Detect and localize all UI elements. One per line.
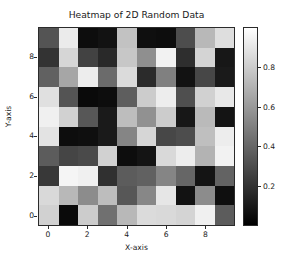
heatmap-cell (59, 28, 79, 48)
x-tick-mark (48, 226, 49, 229)
heatmap-cell (117, 67, 137, 87)
y-tick-mark (34, 136, 37, 137)
heatmap-cell (59, 48, 79, 68)
heatmap-cell (137, 87, 157, 107)
heatmap-cell (78, 28, 98, 48)
heatmap-cell (215, 127, 235, 147)
heatmap-cell (215, 166, 235, 186)
heatmap-cell (176, 205, 196, 225)
page-title: Heatmap of 2D Random Data (38, 9, 235, 21)
heatmap-cell (176, 107, 196, 127)
heatmap-cell (59, 186, 79, 206)
colorbar-tick-mark (258, 186, 261, 187)
x-tick-label: 6 (164, 230, 169, 239)
heatmap-cell (176, 146, 196, 166)
heatmap-cell (156, 48, 176, 68)
heatmap-cell (59, 205, 79, 225)
heatmap-cell (78, 166, 98, 186)
heatmap-cell (117, 107, 137, 127)
heatmap-cell (195, 48, 215, 68)
y-axis-label: Y-axis (4, 93, 13, 141)
y-tick-mark (34, 176, 37, 177)
heatmap-cell (78, 146, 98, 166)
heatmap-cell (137, 166, 157, 186)
heatmap-cell (176, 127, 196, 147)
heatmap-cell (39, 127, 59, 147)
colorbar-tick-label: 0.8 (263, 62, 275, 71)
heatmap-cell (59, 107, 79, 127)
heatmap-cell (98, 146, 118, 166)
colorbar-tick-mark (258, 146, 261, 147)
heatmap-cell (137, 205, 157, 225)
heatmap-cell (78, 205, 98, 225)
heatmap-plot-area (38, 27, 235, 226)
heatmap-cell (176, 186, 196, 206)
heatmap-cell (78, 127, 98, 147)
x-axis-label: X-axis (38, 243, 235, 252)
colorbar-tick-mark (258, 67, 261, 68)
heatmap-cell (156, 205, 176, 225)
heatmap-cell (215, 205, 235, 225)
colorbar (243, 27, 258, 226)
heatmap-cell (59, 87, 79, 107)
heatmap-cell (215, 48, 235, 68)
heatmap-cell (98, 166, 118, 186)
heatmap-cell (156, 127, 176, 147)
heatmap-cell (215, 186, 235, 206)
heatmap-cell (117, 186, 137, 206)
heatmap-cell (98, 205, 118, 225)
heatmap-cell (195, 67, 215, 87)
heatmap-cell (137, 107, 157, 127)
heatmap-cell (98, 28, 118, 48)
heatmap-cell (39, 67, 59, 87)
heatmap-cell (39, 28, 59, 48)
heatmap-cell (156, 87, 176, 107)
heatmap-cell (195, 28, 215, 48)
heatmap-cell (137, 48, 157, 68)
x-tick-label: 4 (124, 230, 129, 239)
heatmap-cell (59, 166, 79, 186)
heatmap-cell (39, 87, 59, 107)
heatmap-cell (78, 186, 98, 206)
x-tick-mark (87, 226, 88, 229)
heatmap-cell (176, 87, 196, 107)
colorbar-tick-label: 0.4 (263, 142, 275, 151)
heatmap-cell (117, 48, 137, 68)
heatmap-cell (98, 186, 118, 206)
colorbar-gradient (244, 28, 257, 225)
heatmap-cell (39, 166, 59, 186)
heatmap-cell (137, 146, 157, 166)
heatmap-cell (137, 67, 157, 87)
heatmap-cell (215, 28, 235, 48)
heatmap-cell (78, 87, 98, 107)
heatmap-cell (215, 146, 235, 166)
heatmap-cell (195, 205, 215, 225)
heatmap-cell (176, 67, 196, 87)
heatmap-cell (195, 186, 215, 206)
heatmap-cell (195, 87, 215, 107)
heatmap-cell (156, 146, 176, 166)
heatmap-cell (39, 48, 59, 68)
heatmap-cell (215, 87, 235, 107)
heatmap-cell (117, 127, 137, 147)
heatmap-cell (39, 205, 59, 225)
heatmap-cell (59, 67, 79, 87)
heatmap-cell (117, 28, 137, 48)
x-tick-mark (166, 226, 167, 229)
heatmap-cell (176, 28, 196, 48)
x-tick-mark (205, 226, 206, 229)
heatmap-cell (137, 186, 157, 206)
heatmap-cell (78, 48, 98, 68)
heatmap-cell (98, 67, 118, 87)
heatmap-cell (137, 28, 157, 48)
heatmap-cell (156, 67, 176, 87)
x-tick-label: 0 (45, 230, 50, 239)
heatmap-cell (117, 205, 137, 225)
heatmap-cell (215, 107, 235, 127)
y-tick-mark (34, 57, 37, 58)
y-axis-tick-labels: 02468 (20, 27, 34, 226)
heatmap-cell (39, 186, 59, 206)
heatmap-cell (98, 87, 118, 107)
heatmap-cell (59, 127, 79, 147)
heatmap-cell (156, 107, 176, 127)
